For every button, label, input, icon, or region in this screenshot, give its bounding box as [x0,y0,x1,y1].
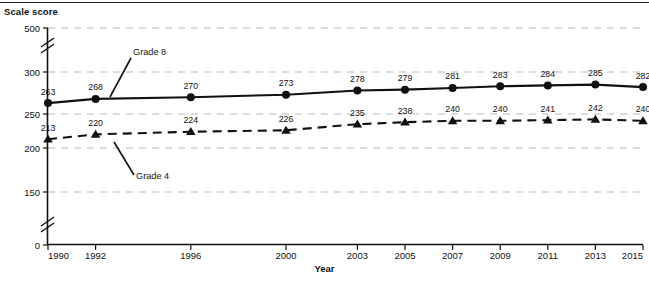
data-point-label: 283 [493,70,508,80]
x-tick-label: 2005 [394,250,415,261]
data-point-label: 235 [350,108,365,118]
x-tick-label: 1990 [48,250,69,261]
data-point-label: 240 [445,104,460,114]
y-tick-label: 150 [24,187,40,198]
axis-lines-group [41,28,643,245]
series-annotation-grade-4: Grade 4 [136,171,169,181]
data-point-label: 224 [183,115,198,125]
y-tick-label: 250 [24,109,40,120]
x-tick-label: 2013 [585,250,606,261]
y-tick-label: 200 [24,143,40,154]
data-point [496,82,504,90]
x-axis-title: Year [0,263,649,274]
data-point-label: 279 [398,73,413,83]
leader-line-grade-4 [114,142,134,175]
x-tick-label: 2000 [275,250,296,261]
series-annotation-grade-8: Grade 8 [133,47,166,57]
y-tick-label: 300 [24,67,40,78]
data-point-label: 242 [588,103,603,113]
y-tick-label: 500 [24,23,40,34]
y-tick-label: 0 [35,240,40,251]
x-tick-label: 2007 [442,250,463,261]
x-tick-label: 2009 [490,250,511,261]
x-tick-label: 2003 [347,250,368,261]
y-axis-ticks-group: 5003002502001500 [24,23,48,251]
data-point [187,93,195,101]
line-chart: 5003002502001500 19901992199620002003200… [0,0,649,285]
data-point-label: 278 [350,74,365,84]
data-point [544,81,552,89]
data-point [353,86,361,94]
x-axis-group: 1990199219962000200320052007200920112013… [48,245,643,261]
data-point-label: 285 [588,68,603,78]
data-point [449,84,457,92]
data-point-label: 282 [636,71,649,81]
x-tick-label: 2011 [538,250,558,261]
data-point-label: 220 [88,118,103,128]
data-point-label: 241 [540,104,555,114]
data-point-label: 238 [398,106,413,116]
data-point-label: 270 [183,81,198,91]
data-point [92,95,100,103]
series-group: 2632682702732782792812832842852822132202… [41,68,649,142]
data-point [401,86,409,94]
data-point-label: 240 [636,104,649,114]
data-point-label: 281 [445,71,460,81]
leader-line-grade-8 [110,58,131,97]
data-point [591,81,599,89]
data-point-label: 240 [493,104,508,114]
data-point-label: 273 [279,78,294,88]
data-point-label: 284 [540,69,555,79]
series-line-grade-8 [48,85,643,104]
series-line-grade-4 [48,119,643,139]
data-point-label: 226 [279,114,294,124]
x-tick-label: 1992 [85,250,106,261]
x-tick-label: 2015 [622,250,643,261]
data-point-label: 268 [88,82,103,92]
x-tick-label: 1996 [180,250,201,261]
data-point [282,91,290,99]
data-point [639,83,647,91]
